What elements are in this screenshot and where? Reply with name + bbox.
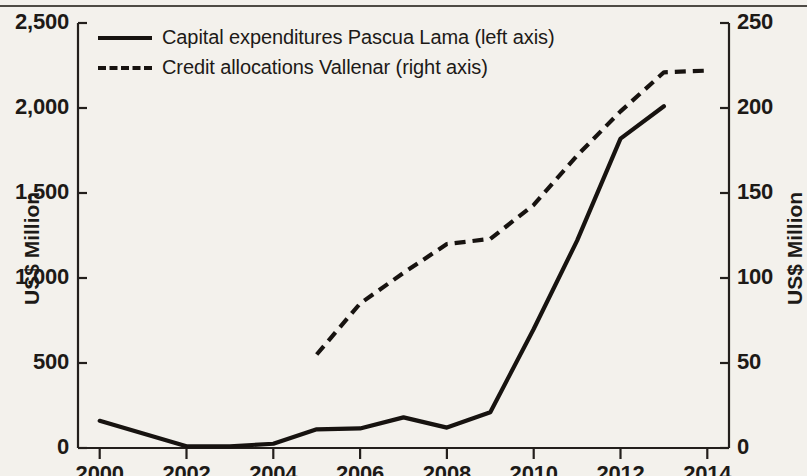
left-axis-title: US$ Million — [20, 192, 44, 305]
x-axis-tick-label: 2004 — [241, 461, 305, 476]
legend-item-credit-allocations: Credit allocations Vallenar (right axis) — [98, 52, 554, 82]
legend-dashed-line-icon — [98, 57, 152, 77]
legend-item-label: Capital expenditures Pascua Lama (left a… — [162, 26, 554, 49]
x-axis-tick-label: 2012 — [589, 461, 653, 476]
right-axis-title: US$ Million — [783, 192, 807, 305]
x-axis-tick-label: 2002 — [155, 461, 219, 476]
axes-group — [78, 23, 729, 459]
series-group — [100, 71, 708, 447]
chart-page: 05001,0001,5002,0002,500 050100150200250… — [0, 0, 807, 476]
right-axis-tick-label: 50 — [737, 349, 761, 375]
x-axis-tick-label: 2010 — [502, 461, 566, 476]
right-axis-tick-label: 0 — [737, 434, 749, 460]
left-axis-tick-label: 2,000 — [15, 94, 69, 120]
chart-legend: Capital expenditures Pascua Lama (left a… — [98, 22, 554, 82]
legend-item-capital-expenditures: Capital expenditures Pascua Lama (left a… — [98, 22, 554, 52]
left-axis-tick-label: 2,500 — [15, 9, 69, 35]
series-credit-allocations — [317, 71, 708, 355]
x-axis-tick-label: 2000 — [68, 461, 132, 476]
right-axis-tick-label: 100 — [737, 264, 773, 290]
x-axis-tick-label: 2014 — [675, 461, 739, 476]
legend-item-label: Credit allocations Vallenar (right axis) — [162, 56, 488, 79]
legend-solid-line-icon — [98, 27, 152, 47]
right-axis-tick-label: 250 — [737, 9, 773, 35]
left-axis-tick-label: 0 — [57, 434, 69, 460]
left-axis-tick-label: 500 — [33, 349, 69, 375]
right-axis-tick-label: 200 — [737, 94, 773, 120]
x-axis-tick-label: 2006 — [328, 461, 392, 476]
right-axis-tick-label: 150 — [737, 179, 773, 205]
x-axis-tick-label: 2008 — [415, 461, 479, 476]
series-capital-expenditures — [100, 106, 664, 446]
